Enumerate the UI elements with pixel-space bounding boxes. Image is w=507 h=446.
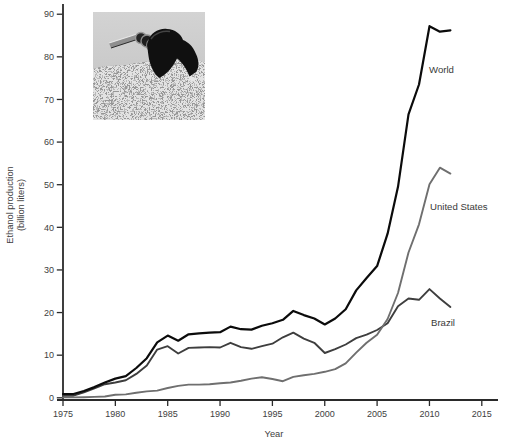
x-tick-label: 1985 <box>158 409 178 419</box>
x-tick-label: 2005 <box>367 409 387 419</box>
y-tick-label: 10 <box>44 350 54 360</box>
x-tick-label: 1995 <box>262 409 282 419</box>
y-tick-label: 40 <box>44 223 54 233</box>
x-axis-label: Year <box>265 429 284 439</box>
x-tick-label: 1975 <box>53 409 73 419</box>
x-tick-label: 1980 <box>105 409 125 419</box>
line-united-states <box>63 168 450 398</box>
y-tick-label: 90 <box>44 9 54 19</box>
fuel-nozzle-photo <box>93 12 205 120</box>
y-axis-label-line1: Ethanol production <box>5 166 15 244</box>
x-tick-label: 1990 <box>210 409 230 419</box>
y-tick-label: 20 <box>44 308 54 318</box>
ethanol-production-figure: Ethanol production (billion liters) Year… <box>0 0 507 446</box>
y-tick-label: 80 <box>44 52 54 62</box>
y-tick-label: 30 <box>44 265 54 275</box>
x-tick-label: 2015 <box>472 409 492 419</box>
series-label-brazil: Brazil <box>431 317 455 328</box>
series-label-united-states: United States <box>430 201 488 212</box>
y-axis-label-line2: (billion liters) <box>16 179 26 231</box>
ethanol-production-chart: Ethanol production (billion liters) Year… <box>0 0 507 446</box>
x-tick-label: 2010 <box>419 409 439 419</box>
y-tick-label: 70 <box>44 95 54 105</box>
x-tick-label: 2000 <box>315 409 335 419</box>
series-label-world: World <box>429 64 454 75</box>
y-tick-label: 60 <box>44 137 54 147</box>
y-tick-label: 0 <box>49 393 54 403</box>
y-tick-label: 50 <box>44 180 54 190</box>
fuel-nozzle-photo-canvas <box>93 12 205 120</box>
